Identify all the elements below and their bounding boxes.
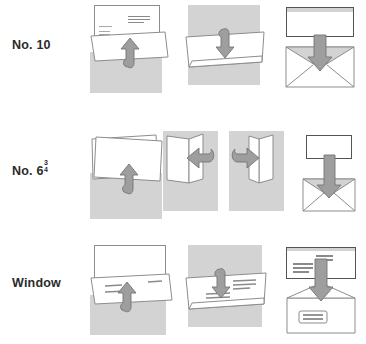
- row-no-10: No. 10: [0, 0, 366, 115]
- standing-fold-and-arrow: [163, 131, 221, 219]
- row-no-6-3-4: No. 634: [0, 115, 366, 240]
- step-no-6-fold-right: [229, 131, 287, 219]
- fraction-three-quarters: 34: [44, 159, 48, 173]
- step-window-insert: [283, 245, 363, 337]
- fold-flap-and-arrow: [186, 5, 266, 93]
- step-no-10-insert: [283, 5, 361, 93]
- row-label-window: Window: [12, 276, 61, 290]
- figure-canvas: No. 10: [0, 0, 366, 344]
- standing-fold-and-arrow: [229, 131, 287, 219]
- step-no-10-fold-up: [90, 5, 170, 93]
- row-window: Window: [0, 240, 366, 344]
- step-no-6-fold-left: [163, 131, 221, 219]
- envelope-and-arrow: [296, 135, 362, 219]
- fold-flap-and-arrow: [90, 5, 170, 93]
- step-no-6-fold-up: [90, 131, 170, 219]
- address-window: [299, 311, 327, 323]
- window-envelope-and-arrow: [283, 245, 363, 337]
- row-label-text: No. 6: [12, 164, 44, 178]
- step-window-fold-down: [186, 245, 271, 335]
- step-window-fold-up: [90, 245, 175, 335]
- fold-flap-and-arrow: [186, 245, 271, 335]
- step-no-6-insert: [296, 135, 362, 219]
- row-label-no-10: No. 10: [12, 38, 51, 52]
- row-label-no-6-3-4: No. 634: [12, 162, 48, 178]
- envelope-and-arrow: [283, 5, 361, 93]
- folding-sheet-and-arrow: [90, 131, 170, 219]
- fold-flap-and-arrow: [90, 245, 175, 335]
- step-no-10-fold-down: [186, 5, 266, 93]
